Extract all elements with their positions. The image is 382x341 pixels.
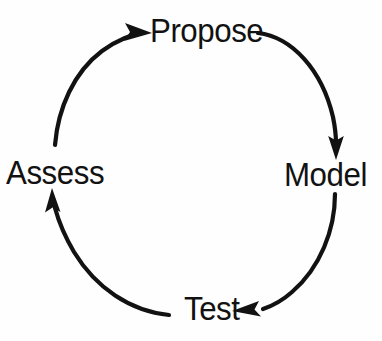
arrowhead-up-icon (45, 188, 61, 213)
arrow-assess-to-propose (55, 23, 152, 145)
node-label-model: Model (284, 157, 367, 191)
node-label-test: Test (184, 291, 240, 325)
arc-assess-to-propose (55, 33, 143, 145)
node-label-assess: Assess (6, 155, 104, 189)
cycle-diagram: Propose Model Test Assess (0, 0, 382, 341)
arc-model-to-test (263, 194, 335, 309)
arrow-propose-to-model (258, 33, 344, 160)
arc-test-to-assess (55, 208, 169, 315)
arrow-test-to-assess (45, 188, 169, 315)
arc-propose-to-model (258, 33, 336, 143)
arrow-model-to-test (232, 194, 335, 317)
arrowhead-right-icon (124, 23, 152, 41)
node-label-propose: Propose (150, 13, 263, 47)
